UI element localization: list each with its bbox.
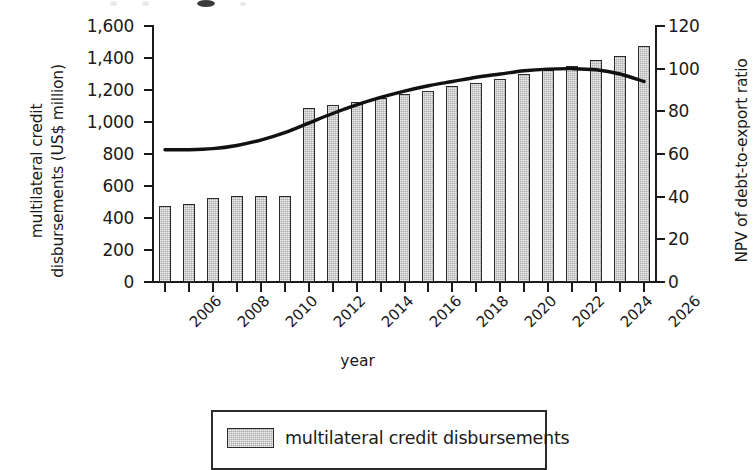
x-axis-title-text: year [340, 352, 375, 370]
x-axis-tick-label: 2020 [521, 292, 560, 331]
x-axis-tick [260, 283, 262, 292]
y-axis-left-title-line2: disbursements (US$ million) [48, 31, 69, 311]
y-axis-left-tick-label: 1,400 [64, 48, 134, 68]
x-axis-tick-label: 2022 [569, 292, 608, 331]
y-axis-left-tick-label: 200 [64, 240, 134, 260]
x-axis-tick [380, 283, 382, 292]
x-axis-tick [356, 283, 358, 292]
x-axis-tick [236, 283, 238, 292]
y-axis-left-tick-label: 800 [64, 144, 134, 164]
cropped-caption-remnant [0, 0, 755, 9]
x-axis-tick [164, 283, 166, 292]
x-axis-tick [284, 283, 286, 292]
y-axis-left-tick-label: 400 [64, 208, 134, 228]
y-axis-right-tick-label: 0 [668, 272, 728, 292]
legend-item-bars: multilateral credit disbursements [227, 428, 570, 448]
x-axis-tick [188, 283, 190, 292]
x-axis-title: year [0, 352, 755, 370]
x-axis-tick [571, 283, 573, 292]
x-axis-tick-label: 2024 [617, 292, 656, 331]
legend-bar-swatch-icon [227, 428, 274, 448]
x-axis-tick-label: 2016 [425, 292, 464, 331]
y-axis-left-tick [144, 217, 152, 219]
x-axis-tick [643, 283, 645, 292]
x-axis-tick-label: 2006 [186, 292, 225, 331]
y-axis-left-tick-label: 600 [64, 176, 134, 196]
y-axis-right-tick-label: 120 [668, 16, 728, 36]
y-axis-right-title: NPV of debt-to-export ratio [732, 21, 753, 301]
x-axis-tick-label: 2008 [234, 292, 273, 331]
legend-item-label: multilateral credit disbursements [285, 428, 570, 448]
y-axis-left-tick-label: 0 [64, 272, 134, 292]
y-axis-left-tick [144, 185, 152, 187]
y-axis-right-title-text: NPV of debt-to-export ratio [732, 21, 753, 301]
y-axis-left-tick-label: 1,000 [64, 112, 134, 132]
y-axis-left-tick [144, 153, 152, 155]
y-axis-right-tick [657, 153, 665, 155]
y-axis-left-tick-label: 1,200 [64, 80, 134, 100]
x-axis-tick [404, 283, 406, 292]
x-axis-tick [595, 283, 597, 292]
x-axis-tick [332, 283, 334, 292]
x-axis-tick-label: 2010 [282, 292, 321, 331]
y-axis-right-tick-label: 40 [668, 187, 728, 207]
x-axis-tick [427, 283, 429, 292]
x-axis-tick-label: 2014 [378, 292, 417, 331]
y-axis-right-tick [657, 281, 665, 283]
x-axis-tick [523, 283, 525, 292]
y-axis-left-title-line1: multilateral credit [27, 31, 48, 311]
x-axis-tick [547, 283, 549, 292]
y-axis-left-tick [144, 281, 152, 283]
y-axis-right-tick-label: 60 [668, 144, 728, 164]
y-axis-left-tick [144, 249, 152, 251]
x-axis-tick-label: 2026 [665, 292, 704, 331]
y-axis-right-tick [657, 25, 665, 27]
y-axis-right-tick [657, 238, 665, 240]
x-axis-tick [499, 283, 501, 292]
y-axis-left-tick [144, 121, 152, 123]
x-axis-tick [619, 283, 621, 292]
x-axis-tick-label: 2018 [473, 292, 512, 331]
npv-ratio-line [165, 69, 644, 150]
y-axis-right-tick [657, 68, 665, 70]
x-axis-tick [308, 283, 310, 292]
y-axis-right-tick [657, 196, 665, 198]
y-axis-left-tick [144, 89, 152, 91]
y-axis-right-tick [657, 110, 665, 112]
y-axis-right-tick-label: 100 [668, 59, 728, 79]
x-axis-tick-label: 2012 [330, 292, 369, 331]
y-axis-right-tick-label: 80 [668, 101, 728, 121]
y-axis-left-title: multilateral credit disbursements (US$ m… [27, 31, 69, 311]
x-axis-tick [475, 283, 477, 292]
legend: multilateral credit disbursements [211, 410, 547, 470]
y-axis-left-tick-label: 1,600 [64, 16, 134, 36]
y-axis-left-tick [144, 25, 152, 27]
x-axis-tick [451, 283, 453, 292]
y-axis-left-tick [144, 57, 152, 59]
line-series [153, 26, 656, 282]
y-axis-right-tick-label: 20 [668, 229, 728, 249]
x-axis-tick [212, 283, 214, 292]
